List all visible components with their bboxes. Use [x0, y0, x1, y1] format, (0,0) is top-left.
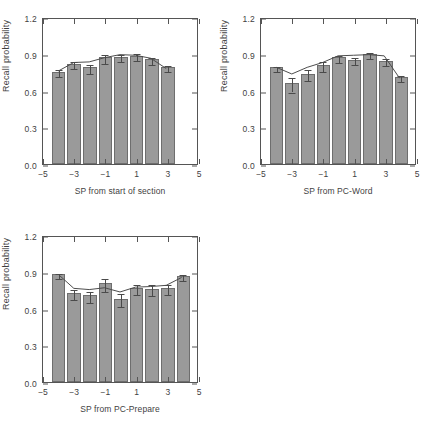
x-tick-mark — [292, 19, 293, 24]
x-tick-mark — [43, 237, 44, 242]
x-tick-mark — [168, 19, 169, 24]
x-tick-mark — [417, 19, 418, 24]
error-bar-cap — [382, 66, 389, 67]
x-tick-mark — [417, 159, 418, 164]
y-tick-mark — [192, 310, 197, 311]
error-bar-cap — [86, 74, 93, 75]
y-tick-label: 0.0 — [25, 161, 37, 171]
chart-panel-start-of-section: Recall probability 0.00.30.60.91.2−5−3−1… — [0, 4, 218, 219]
x-tick-mark — [137, 237, 138, 242]
error-bar-cap — [71, 62, 78, 63]
y-tick-mark — [43, 166, 48, 167]
y-tick-mark — [192, 92, 197, 93]
y-tick-mark — [410, 92, 415, 93]
y-tick-mark — [43, 92, 48, 93]
x-tick-mark — [137, 377, 138, 382]
y-tick-label: 1.2 — [25, 232, 37, 242]
error-bar-cap — [351, 65, 358, 66]
x-tick-label: −1 — [101, 387, 111, 397]
bar — [332, 57, 346, 164]
x-tick-label: 1 — [134, 387, 139, 397]
error-bar — [355, 58, 356, 65]
x-tick-mark — [323, 19, 324, 24]
error-bar-cap — [382, 59, 389, 60]
x-tick-label: −3 — [69, 387, 79, 397]
error-bar-cap — [86, 65, 93, 66]
x-tick-label: 3 — [165, 169, 170, 179]
x-tick-mark — [168, 377, 169, 382]
error-bar-cap — [180, 275, 187, 276]
bar — [177, 276, 191, 382]
x-tick-mark — [261, 159, 262, 164]
y-tick-mark — [43, 55, 48, 56]
x-tick-label: −1 — [319, 169, 329, 179]
error-bar-cap — [102, 292, 109, 293]
error-bar-cap — [133, 54, 140, 55]
error-bar-cap — [71, 69, 78, 70]
bar — [270, 67, 284, 164]
plot-inner-c — [43, 237, 197, 382]
x-tick-mark — [74, 159, 75, 164]
error-bar — [90, 292, 91, 303]
y-tick-mark — [192, 129, 197, 130]
y-tick-label: 0.9 — [243, 51, 255, 61]
x-tick-mark — [168, 237, 169, 242]
error-bar-cap — [55, 70, 62, 71]
y-tick-label: 0.6 — [25, 88, 37, 98]
bar — [99, 57, 113, 164]
x-tick-mark — [199, 377, 200, 382]
error-bar-cap — [102, 279, 109, 280]
x-tick-label: 1 — [352, 169, 357, 179]
x-tick-label: −5 — [38, 169, 48, 179]
x-axis-label-a: SP from start of section — [42, 186, 198, 196]
error-bar-cap — [86, 292, 93, 293]
y-tick-mark — [410, 166, 415, 167]
x-tick-mark — [43, 159, 44, 164]
error-bar-cap — [55, 279, 62, 280]
x-axis-label-b: SP from PC-Word — [260, 186, 416, 196]
error-bar-cap — [118, 294, 125, 295]
x-tick-label: 5 — [197, 387, 202, 397]
x-tick-mark — [43, 377, 44, 382]
error-bar-cap — [320, 72, 327, 73]
x-tick-mark — [199, 19, 200, 24]
error-bar-cap — [273, 67, 280, 68]
bar — [83, 295, 97, 382]
y-tick-label: 0.6 — [25, 306, 37, 316]
error-bar — [308, 70, 309, 81]
x-tick-label: 1 — [134, 169, 139, 179]
bar — [52, 72, 66, 164]
error-bar-cap — [55, 77, 62, 78]
x-tick-mark — [74, 19, 75, 24]
error-bar-cap — [133, 285, 140, 286]
y-tick-mark — [410, 19, 415, 20]
y-tick-label: 0.0 — [25, 379, 37, 389]
x-tick-mark — [323, 159, 324, 164]
x-tick-label: −3 — [287, 169, 297, 179]
x-tick-mark — [105, 19, 106, 24]
y-axis-label-c: Recall probability — [1, 238, 11, 310]
x-tick-label: −5 — [38, 387, 48, 397]
bar — [285, 83, 299, 164]
x-tick-mark — [168, 159, 169, 164]
x-tick-mark — [355, 19, 356, 24]
bar — [130, 288, 144, 382]
y-tick-mark — [43, 347, 48, 348]
error-bar — [137, 285, 138, 295]
error-bar-cap — [180, 281, 187, 282]
y-tick-mark — [192, 273, 197, 274]
error-bar-cap — [336, 56, 343, 57]
x-tick-mark — [43, 19, 44, 24]
y-tick-mark — [192, 55, 197, 56]
x-tick-mark — [292, 159, 293, 164]
error-bar-cap — [304, 81, 311, 82]
y-tick-mark — [43, 384, 48, 385]
plot-inner-b — [261, 19, 415, 164]
y-tick-mark — [192, 166, 197, 167]
x-tick-mark — [137, 19, 138, 24]
chart-panel-pc-prepare: Recall probability 0.00.30.60.91.2−5−3−1… — [0, 222, 218, 437]
bar — [161, 288, 175, 382]
error-bar-cap — [289, 78, 296, 79]
bar — [67, 64, 81, 164]
x-tick-mark — [199, 237, 200, 242]
